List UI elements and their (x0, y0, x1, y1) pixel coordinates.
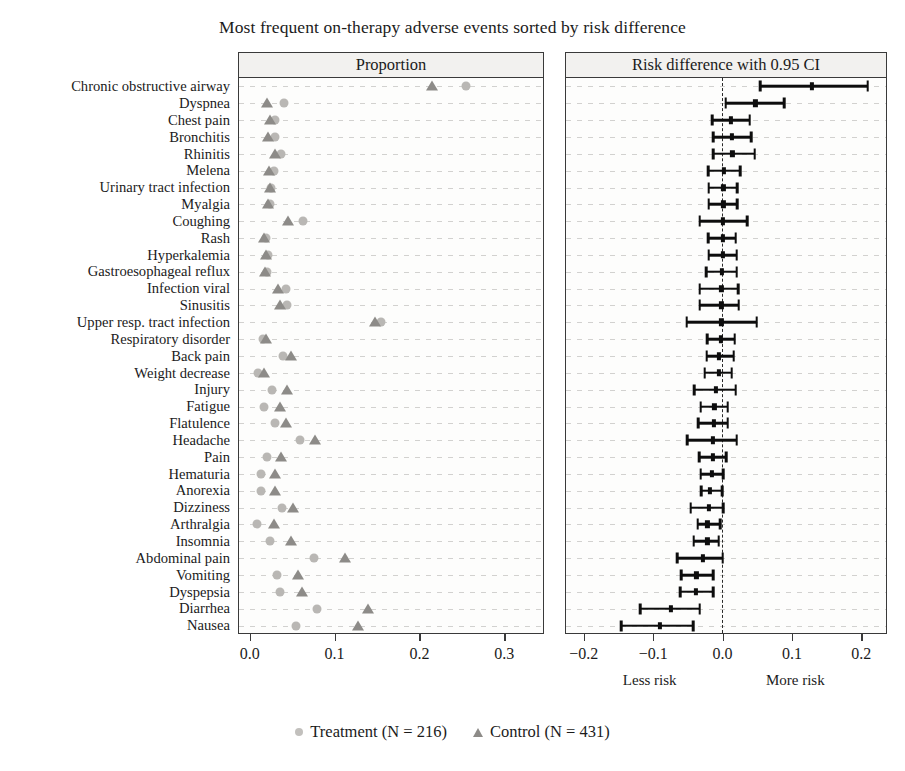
category-label: Upper resp. tract infection (0, 315, 230, 330)
confidence-interval-cap (680, 570, 683, 581)
confidence-interval-cap (708, 182, 711, 193)
confidence-interval-cap (703, 367, 706, 378)
control-point (258, 233, 270, 243)
treatment-point (257, 486, 266, 495)
row-guide-line (566, 575, 886, 576)
row-guide-line (239, 339, 543, 340)
treatment-point (263, 453, 272, 462)
category-label: Respiratory disorder (0, 332, 230, 347)
category-label: Dyspepsia (0, 585, 230, 600)
category-label: Dizziness (0, 500, 230, 515)
confidence-interval-cap (639, 603, 642, 614)
control-point (274, 300, 286, 310)
confidence-interval-cap (748, 115, 751, 126)
category-label: Gastroesophageal reflux (0, 264, 230, 279)
confidence-interval-cap (866, 81, 869, 92)
confidence-interval-cap (712, 586, 715, 597)
treatment-point (291, 621, 300, 630)
confidence-interval-cap (705, 266, 708, 277)
control-point (264, 182, 276, 192)
category-label: Chest pain (0, 113, 230, 128)
risk-difference-estimate (729, 116, 733, 124)
confidence-interval-cap (708, 199, 711, 210)
category-label: Flatulence (0, 416, 230, 431)
risk-difference-estimate (711, 436, 715, 444)
axis-tick (723, 634, 724, 641)
control-point (264, 115, 276, 125)
category-label: Urinary tract infection (0, 180, 230, 195)
axis-tick (419, 634, 420, 641)
axis-tick (504, 634, 505, 641)
control-point (275, 452, 287, 462)
row-guide-line (566, 541, 886, 542)
confidence-interval-cap (700, 485, 703, 496)
forest-plot-figure: Most frequent on-therapy adverse events … (0, 0, 905, 771)
risk-difference-estimate (669, 605, 673, 613)
confidence-interval-cap (620, 620, 623, 631)
circle-marker-icon (295, 728, 303, 736)
confidence-interval-cap (699, 468, 702, 479)
category-label: Infection viral (0, 281, 230, 296)
confidence-interval-cap (690, 502, 693, 513)
confidence-interval-cap (736, 199, 739, 210)
axis-tick (250, 634, 251, 641)
risk-difference-estimate (721, 201, 725, 209)
confidence-interval-cap (750, 131, 753, 142)
axis-tick-label: 0.0 (713, 645, 733, 663)
category-label: Abdominal pain (0, 551, 230, 566)
category-label: Hematuria (0, 467, 230, 482)
axis-tick-label: 0.0 (240, 645, 260, 663)
treatment-point (252, 520, 261, 529)
axis-tick-label: 0.2 (851, 645, 871, 663)
row-guide-line (566, 524, 886, 525)
risk-difference-estimate (710, 470, 714, 478)
control-point (287, 502, 299, 512)
control-point (362, 603, 374, 613)
category-label: Nausea (0, 618, 230, 633)
category-label: Arthralgia (0, 517, 230, 532)
risk-difference-estimate (719, 302, 723, 310)
category-label: Headache (0, 433, 230, 448)
triangle-marker-icon (473, 728, 483, 737)
axis-tick-label: 0.1 (325, 645, 345, 663)
confidence-interval-cap (705, 351, 708, 362)
treatment-point (273, 571, 282, 580)
row-guide-line (566, 609, 886, 610)
control-point (262, 199, 274, 209)
control-point (261, 98, 273, 108)
treatment-point (461, 82, 470, 91)
category-label: Coughing (0, 214, 230, 229)
category-label: Weight decrease (0, 366, 230, 381)
confidence-interval-cap (737, 300, 740, 311)
risk-difference-estimate (753, 100, 757, 108)
row-guide-line (239, 255, 543, 256)
treatment-point (313, 604, 322, 613)
confidence-interval-cap (711, 115, 714, 126)
confidence-interval-cap (712, 570, 715, 581)
confidence-interval-cap (717, 536, 720, 547)
control-point (272, 283, 284, 293)
more-risk-note: More risk (766, 672, 825, 689)
risk-difference-estimate (711, 453, 715, 461)
confidence-interval-cap (692, 620, 695, 631)
row-guide-line (239, 609, 543, 610)
control-point (259, 266, 271, 276)
row-guide-line (239, 171, 543, 172)
confidence-interval-cap (676, 553, 679, 564)
risk-difference-estimate (730, 150, 734, 158)
category-label: Diarrhea (0, 601, 230, 616)
confidence-interval-cap (712, 148, 715, 159)
treatment-point (298, 217, 307, 226)
axis-tick (335, 634, 336, 641)
confidence-interval-bar (677, 557, 723, 560)
confidence-interval-cap (685, 317, 688, 328)
confidence-interval-cap (699, 283, 702, 294)
treatment-point (260, 402, 269, 411)
row-guide-line (239, 120, 543, 121)
control-point (281, 384, 293, 394)
treatment-point (257, 469, 266, 478)
legend-label-treatment: Treatment (N = 216) (310, 722, 447, 742)
confidence-interval-cap (696, 519, 699, 530)
confidence-interval-cap (721, 553, 724, 564)
panel-header-risk-difference: Risk difference with 0.95 CI (565, 52, 887, 78)
